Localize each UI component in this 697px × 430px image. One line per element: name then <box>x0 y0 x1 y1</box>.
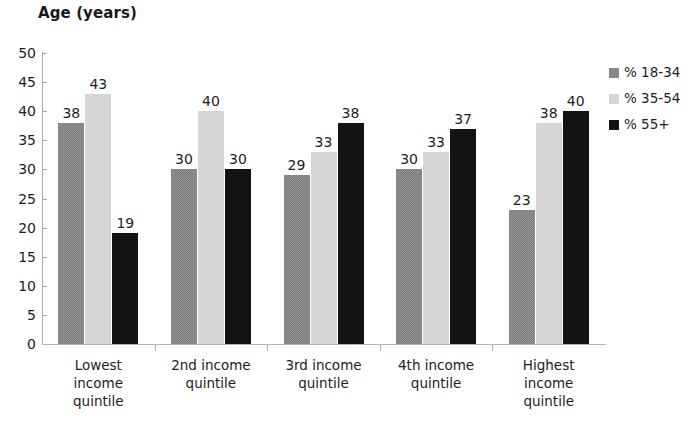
bar[interactable]: 40 <box>198 111 224 344</box>
bar-value-label: 33 <box>315 135 333 149</box>
bar-value-label: 30 <box>175 152 193 166</box>
bar-group: 303337 <box>396 53 476 344</box>
category-label-line: Lowest <box>42 356 155 374</box>
x-axis-category-label: 4th incomequintile <box>380 356 493 392</box>
bar[interactable]: 29 <box>284 175 310 344</box>
bar-value-label: 33 <box>427 135 445 149</box>
y-axis-tick-label: 0 <box>27 337 36 351</box>
y-axis-tick-mark <box>42 169 47 170</box>
legend-swatch-icon <box>609 120 619 130</box>
x-axis-tick-mark <box>492 345 493 351</box>
x-axis-category-label: 2nd incomequintile <box>155 356 268 392</box>
y-axis-tick-mark <box>42 199 47 200</box>
bar-fill <box>396 169 422 344</box>
bar[interactable]: 38 <box>536 123 562 344</box>
x-axis-tick-mark <box>155 345 156 351</box>
legend-swatch-icon <box>609 68 619 78</box>
bar-fill <box>536 123 562 344</box>
chart-title: Age (years) <box>38 4 137 22</box>
bar-value-label: 40 <box>202 94 220 108</box>
bar-value-label: 37 <box>454 112 472 126</box>
bar-fill <box>112 233 138 344</box>
bar[interactable]: 30 <box>171 169 197 344</box>
x-axis-category-label: Lowestincomequintile <box>42 356 155 410</box>
category-label-line: quintile <box>155 374 268 392</box>
x-axis-tick-mark <box>380 345 381 351</box>
bar-value-label: 38 <box>342 106 360 120</box>
y-axis-tick-label: 25 <box>18 192 36 206</box>
y-axis-tick-label: 30 <box>18 162 36 176</box>
bar[interactable]: 33 <box>423 152 449 344</box>
y-axis-tick-mark <box>42 228 47 229</box>
bar[interactable]: 30 <box>225 169 251 344</box>
y-axis-tick-mark <box>42 111 47 112</box>
x-axis-category-label: Highestincomequintile <box>492 356 605 410</box>
category-label-line: 4th income <box>380 356 493 374</box>
bar-fill <box>85 94 111 344</box>
bar-fill <box>450 129 476 344</box>
bar-fill <box>338 123 364 344</box>
category-label-line: quintile <box>267 374 380 392</box>
category-label-line: quintile <box>380 374 493 392</box>
legend-label: % 35-54 <box>624 92 680 106</box>
legend-swatch-icon <box>609 94 619 104</box>
bar[interactable]: 40 <box>563 111 589 344</box>
y-axis-tick-mark <box>42 82 47 83</box>
legend-item[interactable]: % 55+ <box>609 112 697 138</box>
bar-value-label: 40 <box>567 94 585 108</box>
bar-group: 293338 <box>284 53 364 344</box>
bar-group: 384319 <box>58 53 138 344</box>
x-axis-tick-mark <box>267 345 268 351</box>
category-label-line: quintile <box>42 392 155 410</box>
bar[interactable]: 38 <box>338 123 364 344</box>
bar[interactable]: 38 <box>58 123 84 344</box>
bar-fill <box>311 152 337 344</box>
bar-value-label: 29 <box>288 158 306 172</box>
bar-fill <box>284 175 310 344</box>
legend-label: % 55+ <box>624 118 670 132</box>
y-axis-tick-label: 20 <box>18 221 36 235</box>
x-axis-category-label: 3rd incomequintile <box>267 356 380 392</box>
y-axis-tick-label: 35 <box>18 133 36 147</box>
y-axis-tick-mark <box>42 53 47 54</box>
category-label-line: quintile <box>492 392 605 410</box>
legend-item[interactable]: % 18-34 <box>609 60 697 86</box>
y-axis-tick-mark <box>42 257 47 258</box>
bar-fill <box>509 210 535 344</box>
bar[interactable]: 33 <box>311 152 337 344</box>
bar-fill <box>171 169 197 344</box>
bar-value-label: 38 <box>62 106 80 120</box>
bar[interactable]: 19 <box>112 233 138 344</box>
chart-legend: % 18-34% 35-54% 55+ <box>609 60 697 138</box>
legend-item[interactable]: % 35-54 <box>609 86 697 112</box>
bar[interactable]: 30 <box>396 169 422 344</box>
bar-value-label: 43 <box>89 77 107 91</box>
bar-group: 233840 <box>509 53 589 344</box>
bar-fill <box>225 169 251 344</box>
category-label-line: income <box>42 374 155 392</box>
bar-chart: Age (years) 50454035302520151050 3843193… <box>0 0 697 430</box>
bar-value-label: 19 <box>116 216 134 230</box>
y-axis-tick-label: 40 <box>18 104 36 118</box>
y-axis-tick-label: 50 <box>18 46 36 60</box>
y-axis-tick-label: 10 <box>18 279 36 293</box>
y-axis-tick-mark <box>42 140 47 141</box>
y-axis-tick-label: 45 <box>18 75 36 89</box>
bar-fill <box>423 152 449 344</box>
bar-value-label: 30 <box>229 152 247 166</box>
x-axis-line <box>42 344 606 345</box>
bar[interactable]: 43 <box>85 94 111 344</box>
y-axis-tick-label: 15 <box>18 250 36 264</box>
bar[interactable]: 23 <box>509 210 535 344</box>
category-label-line: 3rd income <box>267 356 380 374</box>
y-axis-tick-mark <box>42 286 47 287</box>
bar-value-label: 30 <box>400 152 418 166</box>
legend-label: % 18-34 <box>624 66 680 80</box>
bar-fill <box>563 111 589 344</box>
y-axis-tick-label: 5 <box>27 308 36 322</box>
bar[interactable]: 37 <box>450 129 476 344</box>
category-label-line: income <box>492 374 605 392</box>
bar-group: 304030 <box>171 53 251 344</box>
category-label-line: Highest <box>492 356 605 374</box>
y-axis-tick-mark <box>42 315 47 316</box>
